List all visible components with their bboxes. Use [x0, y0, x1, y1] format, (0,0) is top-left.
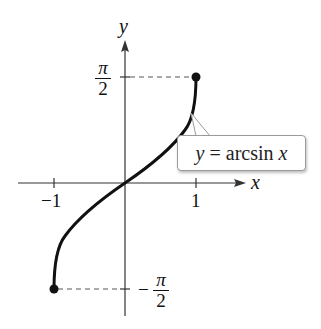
callout-pointer [191, 113, 210, 136]
endpoint-max [192, 73, 201, 82]
function-callout: y = arcsin x [177, 135, 306, 171]
x-tick-label-neg1: −1 [41, 190, 61, 212]
x-axis-label: x [251, 171, 260, 194]
numerator: π [156, 271, 166, 289]
callout-x: x [279, 142, 288, 165]
y-tick-label-pi-over-2: π 2 [95, 59, 111, 98]
numerator: π [98, 59, 108, 77]
x-tick-label-1: 1 [191, 190, 201, 212]
callout-y: y [196, 142, 205, 165]
y-axis-label: y [119, 15, 128, 38]
minus-sign: − [138, 279, 149, 301]
callout-equation: = arcsin [204, 142, 278, 165]
endpoint-min [50, 285, 59, 294]
denominator: 2 [156, 292, 166, 310]
denominator: 2 [98, 80, 108, 98]
y-tick-label-neg-pi-over-2: π 2 [153, 271, 169, 310]
